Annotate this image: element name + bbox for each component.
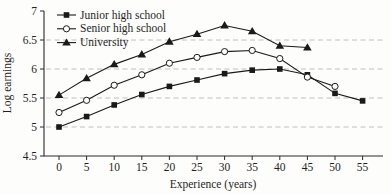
data-point-circle (56, 109, 62, 115)
data-point-circle (84, 97, 90, 103)
x-tick-label: 45 (302, 161, 314, 173)
data-point-circle (304, 74, 310, 80)
data-point-circle (332, 83, 338, 89)
y-tick-label: 5.5 (23, 92, 38, 104)
data-point-triangle (82, 74, 91, 81)
x-tick-label: 55 (357, 161, 369, 173)
data-point-circle (166, 60, 172, 66)
y-tick-label: 6 (31, 63, 37, 75)
square-marker-icon (64, 12, 70, 18)
x-tick-label: 5 (84, 161, 90, 173)
data-point-square (360, 98, 366, 104)
legend-label-senior: Senior high school (80, 22, 166, 35)
x-tick-label: 0 (56, 161, 62, 173)
x-tick-label: 20 (164, 161, 176, 173)
data-point-circle (249, 47, 255, 53)
data-point-square (249, 67, 255, 73)
data-point-triangle (303, 43, 312, 50)
figure: 4.555.566.570510152025303540455055 Log e… (0, 0, 391, 195)
legend-item-junior-high-school: Junior high school (57, 9, 165, 22)
data-point-circle (111, 82, 117, 88)
legend-label-junior: Junior high school (80, 9, 165, 22)
data-point-square (194, 77, 200, 83)
data-point-square (277, 66, 283, 72)
x-tick-label: 50 (329, 161, 341, 173)
data-point-square (139, 92, 145, 98)
chart-plot: 4.555.566.570510152025303540455055 (23, 5, 383, 174)
x-tick-label: 15 (136, 161, 148, 173)
data-point-triangle (55, 91, 64, 98)
y-tick-label: 5 (31, 121, 37, 133)
data-point-circle (194, 54, 200, 60)
chart-canvas: 4.555.566.570510152025303540455055 Log e… (0, 0, 391, 195)
circle-marker-icon (63, 26, 69, 32)
data-point-triangle (220, 21, 229, 28)
y-tick-label: 7 (31, 5, 37, 17)
legend: Junior high school Senior high school Un… (57, 9, 166, 50)
data-point-square (56, 124, 62, 130)
y-tick-label: 6.5 (23, 34, 38, 46)
data-point-square (111, 102, 117, 108)
x-tick-label: 40 (274, 161, 286, 173)
x-tick-label: 25 (191, 161, 203, 173)
data-point-square (84, 114, 90, 120)
legend-item-senior-high-school: Senior high school (57, 22, 166, 35)
data-point-circle (222, 49, 228, 55)
data-point-square (332, 91, 338, 97)
x-tick-label: 30 (219, 161, 231, 173)
data-point-triangle (276, 41, 285, 48)
x-tick-label: 35 (246, 161, 258, 173)
y-axis-label: Log earnings (1, 52, 14, 113)
data-point-circle (139, 72, 145, 78)
legend-label-university: University (80, 36, 129, 49)
y-tick-label: 4.5 (23, 150, 38, 162)
data-point-square (222, 71, 228, 77)
legend-item-university: University (57, 36, 129, 49)
x-tick-label: 10 (108, 161, 120, 173)
data-point-circle (277, 55, 283, 61)
data-point-triangle (138, 50, 147, 57)
x-axis-label: Experience (years) (170, 178, 257, 191)
data-point-square (167, 84, 173, 90)
